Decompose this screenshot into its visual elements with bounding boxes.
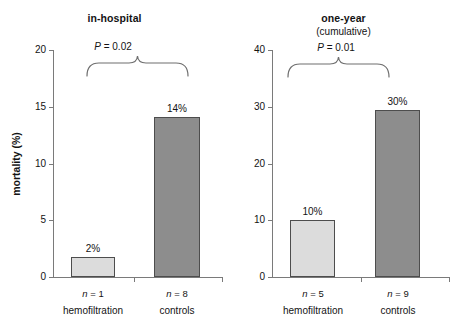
bar-value-hemofiltration-left: 2% [71,243,115,254]
x-tick-mark-mid-left [134,277,135,282]
y-tick-label-20-right: 20 [233,158,265,169]
n-value-right-2: = 9 [393,288,409,299]
pvalue-rest-left: = 0.02 [101,41,132,52]
panel-title-right: one-year [229,12,458,24]
y-tick-label-15-left: 15 [14,101,46,112]
y-tick-mark-15-left [49,107,54,108]
bar-controls-in-hospital[interactable] [154,117,200,277]
n-value-right-1: = 5 [308,288,324,299]
bar-value-controls-right: 30% [375,96,420,107]
category-name-hemofiltration-right: hemofiltration [273,305,353,316]
category-name-hemofiltration-left: hemofiltration [53,305,133,316]
n-value-left-1: = 1 [88,288,104,299]
y-tick-mark-0-left [49,277,54,278]
significance-brace-right [286,56,391,78]
y-tick-mark-0-right [268,277,273,278]
x-tick-mark-mid-right [361,277,362,282]
y-tick-mark-10-left [49,164,54,165]
panel-title-left: in-hospital [0,12,229,24]
category-n-controls-right: n = 9 [368,288,428,299]
x-axis-line-left [53,277,223,278]
category-n-hemofiltration-left: n = 1 [63,288,123,299]
category-name-controls-right: controls [363,305,433,316]
y-tick-mark-5-left [49,220,54,221]
n-value-left-2: = 8 [172,288,188,299]
bar-hemofiltration-one-year[interactable] [290,220,335,277]
y-tick-label-10-right: 10 [233,214,265,225]
y-tick-label-0-right: 0 [233,271,265,282]
y-tick-label-5-left: 5 [14,214,46,225]
pvalue-label-right: P = 0.01 [241,42,431,53]
category-name-controls-left: controls [142,305,212,316]
panel-in-hospital: in-hospital P = 0.02 20 15 10 5 0 2% 14%… [0,0,229,328]
y-tick-mark-20-right [268,164,273,165]
category-n-hemofiltration-right: n = 5 [283,288,343,299]
y-axis-label: mortality (%) [10,114,22,214]
panel-one-year: one-year (cumulative) P = 0.01 40 30 20 … [229,0,458,328]
y-tick-label-0-left: 0 [14,271,46,282]
bar-value-controls-left: 14% [154,103,200,114]
bar-value-hemofiltration-right: 10% [290,206,335,217]
pvalue-italic-p-right: P [317,42,324,53]
pvalue-rest-right: = 0.01 [324,42,355,53]
x-tick-mark-right-right [449,277,450,282]
bar-controls-one-year[interactable] [375,110,420,277]
x-tick-mark-right-left [222,277,223,282]
y-tick-mark-30-right [268,107,273,108]
y-tick-label-20-left: 20 [14,44,46,55]
y-tick-label-40-right: 40 [233,44,265,55]
y-tick-label-30-right: 30 [233,101,265,112]
y-tick-mark-20-left [49,50,54,51]
pvalue-italic-p-left: P [94,41,101,52]
category-n-controls-left: n = 8 [147,288,207,299]
panel-subtitle-right: (cumulative) [229,26,458,37]
significance-brace-left [85,55,190,77]
pvalue-label-left: P = 0.02 [18,41,208,52]
y-tick-mark-10-right [268,220,273,221]
bar-hemofiltration-in-hospital[interactable] [71,257,115,277]
figure-two-panel-bar-chart: in-hospital P = 0.02 20 15 10 5 0 2% 14%… [0,0,458,328]
y-tick-mark-40-right [268,50,273,51]
